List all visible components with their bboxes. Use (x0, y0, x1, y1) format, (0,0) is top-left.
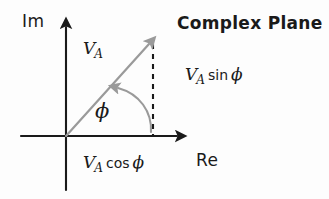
real-axis-label: Re (196, 152, 219, 169)
phasor-diagram-figure: Im Re Complex Plane VA ϕ VAsinϕ VAcosϕ (0, 0, 329, 199)
horizontal-component-subscript: A (94, 161, 103, 175)
phasor-magnitude-subscript: A (94, 47, 103, 61)
imaginary-axis-label: Im (22, 13, 45, 30)
horizontal-component-phi: ϕ (133, 152, 145, 172)
angle-phi-label: ϕ (95, 101, 109, 122)
horizontal-component-function: cos (106, 155, 130, 171)
figure-title: Complex Plane (177, 15, 323, 32)
vertical-component-function: sin (208, 67, 228, 83)
vertical-component-label: VAsinϕ (185, 66, 243, 86)
vertical-component-phi: ϕ (231, 64, 243, 84)
vertical-component-subscript: A (196, 73, 205, 87)
horizontal-component-label: VAcosϕ (83, 154, 144, 174)
angle-arc-arrow (118, 88, 151, 132)
phasor-magnitude-label: VA (83, 40, 103, 60)
